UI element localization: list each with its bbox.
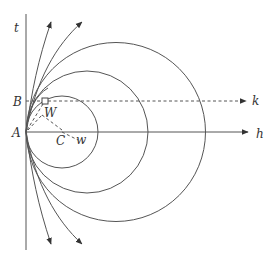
label-t: t: [14, 21, 19, 35]
label-k: k: [252, 94, 259, 108]
label-w: w: [76, 133, 87, 147]
label-h: h: [256, 127, 264, 141]
label-B: B: [12, 95, 22, 109]
label-W: W: [44, 106, 58, 120]
downward-arrow-2: [26, 132, 82, 244]
label-C: C: [56, 134, 65, 148]
label-A: A: [11, 126, 21, 140]
diagram-canvas: t B A W C w k h: [0, 0, 272, 264]
point-W-marker: [42, 98, 48, 104]
dashed-A-short: [28, 115, 42, 130]
